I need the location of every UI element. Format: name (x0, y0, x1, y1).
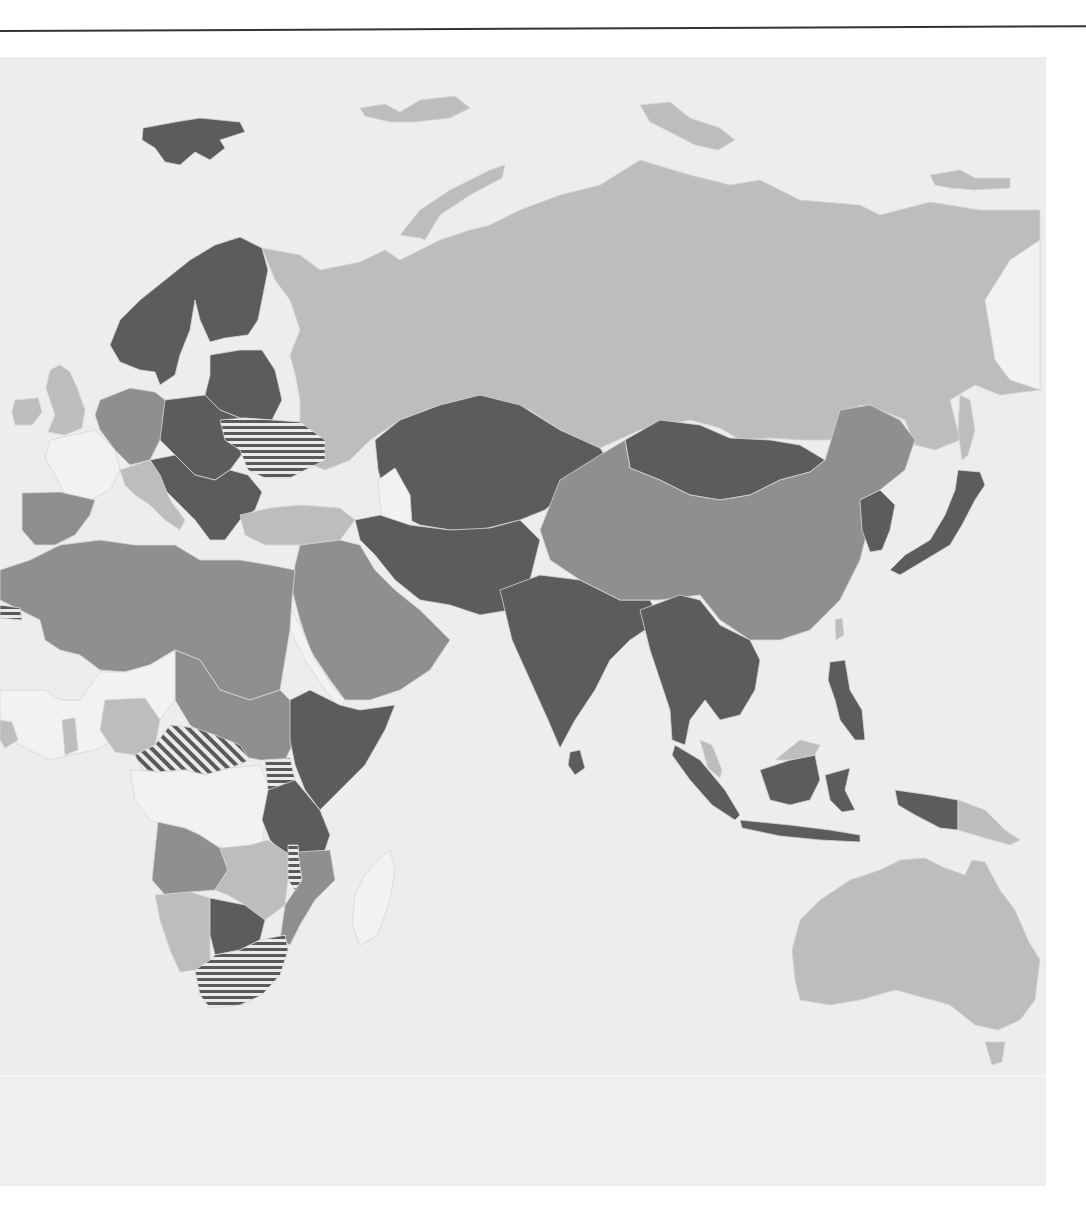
region-tasmania (985, 1042, 1005, 1065)
region-svalbard (142, 118, 245, 165)
choropleth-map (0, 57, 1046, 1185)
region-uk (46, 365, 85, 435)
region-russia (262, 160, 1040, 470)
region-australia (792, 858, 1040, 1030)
region-sri-lanka (568, 750, 585, 775)
region-papua-new-guinea (958, 800, 1020, 845)
region-java (740, 820, 860, 842)
region-new-siberian-islands (930, 170, 1010, 190)
region-korea (860, 490, 895, 552)
region-madagascar (352, 850, 395, 945)
region-namibia (155, 892, 210, 972)
region-india (500, 575, 660, 748)
map-panel: 0 2000 mi 0 2000 km (0, 57, 1046, 1185)
region-ethiopia-somalia (290, 690, 395, 810)
region-severnaya-zemlya (640, 102, 735, 150)
region-borneo-indonesia (760, 755, 820, 805)
region-ghana (62, 718, 78, 755)
region-sakhalin (958, 395, 975, 460)
region-ireland (12, 398, 42, 425)
region-nigeria (100, 698, 160, 755)
region-japan (890, 470, 985, 575)
region-philippines (828, 660, 865, 740)
map-lower-band: 0 2000 mi 0 2000 km (0, 1075, 1046, 1186)
region-turkey (240, 505, 355, 545)
region-taiwan (835, 618, 844, 640)
region-sulawesi (825, 768, 855, 812)
region-iberia (22, 492, 95, 545)
region-franz-josef-land (360, 96, 470, 122)
region-papua-indonesia (895, 790, 958, 830)
top-rule-divider (0, 25, 1086, 32)
